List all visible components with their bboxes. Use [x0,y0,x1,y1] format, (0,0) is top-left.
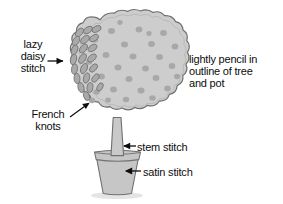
french-knot-dot [174,74,180,79]
french-knot-dot [123,97,129,103]
embroidery-tree-illustration [0,0,283,204]
french-knot-dot [164,86,171,92]
french-knot-dot [115,65,122,71]
french-knot-dot [149,95,155,101]
french-knot-dot [148,41,155,47]
french-knot-dot [136,27,143,33]
french-knot-dot [103,52,110,58]
french-knot-dot [146,31,151,36]
french-knot-dot [160,30,167,36]
stem-stitch-arrow [123,143,136,150]
tree-trunk [111,118,124,156]
figure-canvas: lazy daisy stitch lightly pencil in outl… [0,0,283,204]
french-knot-dot [117,20,122,25]
french-knot-dot [108,28,115,34]
french-knot-dot [142,66,149,72]
french-knot-dot [172,44,179,50]
french-knot-dot [138,88,145,94]
french-knot-dot [110,87,117,93]
french-knot-dot [153,75,160,81]
french-knot-dot [121,42,128,48]
label-lightly-pencil-outline: lightly pencil in outline of tree and po… [189,53,283,90]
label-lazy-daisy-stitch: lazy daisy stitch [11,38,55,75]
french-knot-dot [156,54,163,60]
french-knot-dot [126,76,133,82]
label-stem-stitch: stem stitch [137,141,187,153]
french-knot-dot [169,63,176,69]
flower-pot [97,158,139,195]
label-satin-stitch: satin stitch [143,166,193,178]
french-knot-dot [130,54,137,60]
label-french-knots: French knots [16,108,80,132]
french-knot-dot [105,97,111,102]
